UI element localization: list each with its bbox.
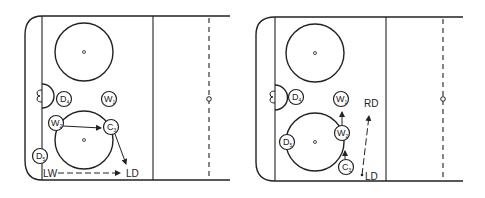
svg-text:RD: RD bbox=[364, 98, 378, 109]
player-d4-left: D4 bbox=[57, 92, 72, 107]
player-c3-left: C3 bbox=[104, 120, 119, 135]
right-top-faceoff-circle bbox=[286, 24, 344, 82]
left-goal-net bbox=[37, 90, 42, 102]
player-d4-right: D4 bbox=[289, 90, 304, 105]
left-rink bbox=[25, 16, 230, 180]
svg-text:LD: LD bbox=[365, 171, 378, 182]
player-c3-right: C3 bbox=[339, 160, 354, 175]
player-w1-left: W1 bbox=[102, 92, 117, 107]
left-bottom-faceoff-circle bbox=[55, 111, 113, 169]
player-w1-right: W1 bbox=[334, 92, 349, 107]
left-rink-boards bbox=[25, 16, 230, 180]
left-top-faceoff-circle bbox=[55, 23, 113, 81]
player-d5-left: D5 bbox=[33, 149, 48, 164]
svg-text:LD: LD bbox=[126, 168, 139, 179]
pass-arrow-w2-c3 bbox=[63, 126, 101, 128]
svg-text:LW: LW bbox=[43, 168, 58, 179]
left-goal-crease bbox=[42, 84, 54, 108]
left-center-dot bbox=[207, 97, 212, 102]
right-rink bbox=[256, 17, 463, 181]
player-d5-right: D5 bbox=[280, 135, 295, 150]
pass-arrow-ld-rd bbox=[362, 116, 369, 175]
hockey-diagrams: D4 W1 W2 C3 D5 LW LD D4 W1 bbox=[0, 0, 485, 198]
skate-arrow-c3 bbox=[115, 134, 126, 164]
player-w2-right: W2 bbox=[335, 126, 350, 141]
left-players: D4 W1 W2 C3 D5 LW LD bbox=[33, 92, 139, 180]
rink-diagrams-svg: D4 W1 W2 C3 D5 LW LD D4 W1 bbox=[0, 0, 485, 198]
player-w2-left: W2 bbox=[49, 116, 64, 131]
